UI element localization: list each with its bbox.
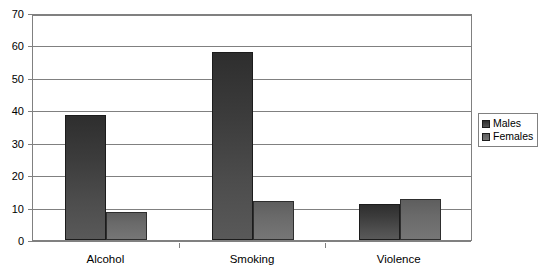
chart-legend: MalesFemales — [478, 113, 538, 147]
y-tick-label-70: 70 — [12, 9, 24, 20]
bar-males-smoking — [212, 52, 253, 240]
y-tick-label-0: 0 — [18, 236, 24, 247]
bar-chart: 010203040506070 AlcoholSmokingViolence M… — [0, 0, 546, 273]
x-tick-mark-2 — [325, 243, 326, 248]
gridline-60 — [33, 46, 471, 47]
legend-label-males: Males — [493, 118, 521, 129]
y-tick-label-10: 10 — [12, 203, 24, 214]
x-axis-label-violence: Violence — [377, 253, 421, 265]
gridline-70 — [33, 15, 471, 16]
x-axis-label-smoking: Smoking — [230, 253, 275, 265]
bar-females-violence — [400, 199, 441, 240]
y-axis: 010203040506070 — [0, 0, 32, 241]
x-axis-label-alcohol: Alcohol — [86, 253, 124, 265]
y-tick-label-40: 40 — [12, 106, 24, 117]
legend-label-females: Females — [493, 131, 533, 142]
x-axis-category-labels: AlcoholSmokingViolence — [32, 243, 472, 267]
bar-females-smoking — [253, 201, 294, 240]
bar-males-violence — [359, 204, 400, 240]
bar-males-alcohol — [65, 115, 106, 240]
legend-swatch-males-icon — [482, 120, 490, 128]
y-tick-label-60: 60 — [12, 41, 24, 52]
y-tick-label-20: 20 — [12, 171, 24, 182]
legend-item-males: Males — [482, 117, 533, 130]
legend-item-females: Females — [482, 130, 533, 143]
x-tick-mark-1 — [179, 243, 180, 248]
y-tick-label-30: 30 — [12, 138, 24, 149]
plot-area — [32, 14, 472, 241]
y-tick-label-50: 50 — [12, 73, 24, 84]
legend-swatch-females-icon — [482, 133, 490, 141]
gridline-0 — [33, 241, 471, 242]
bar-females-alcohol — [106, 212, 147, 240]
